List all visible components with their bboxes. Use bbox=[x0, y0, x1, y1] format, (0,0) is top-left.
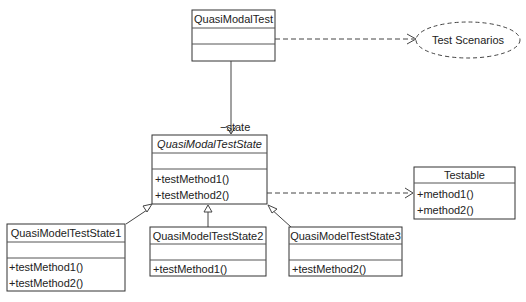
class-name: QuasiModelTestState3 bbox=[290, 230, 401, 242]
generalization-state2 bbox=[204, 205, 212, 227]
method: +testMethod2() bbox=[292, 263, 366, 275]
dependency-to-test-scenarios bbox=[275, 34, 416, 44]
class-quasi-model-test-state1: QuasiModelTestState1 +testMethod1() +tes… bbox=[7, 224, 125, 291]
method: +method1() bbox=[417, 188, 474, 200]
class-name: QuasiModalTestState bbox=[157, 138, 262, 150]
method: +testMethod1() bbox=[155, 173, 229, 185]
method: +testMethod2() bbox=[155, 189, 229, 201]
method: +testMethod1() bbox=[153, 263, 227, 275]
class-quasi-model-test-state3: QuasiModelTestState3 +testMethod2() bbox=[289, 227, 402, 276]
uml-diagram: QuasiModalTest Test Scenarios −state Qua… bbox=[0, 0, 526, 302]
generalization-state1 bbox=[126, 204, 152, 224]
role-label: −state bbox=[220, 121, 250, 133]
class-quasi-modal-test: QuasiModalTest bbox=[192, 10, 275, 61]
usecase-name: Test Scenarios bbox=[432, 34, 505, 46]
class-name: Testable bbox=[444, 169, 485, 181]
generalization-state3 bbox=[268, 205, 291, 227]
dependency-to-testable bbox=[267, 188, 413, 198]
class-name: QuasiModalTest bbox=[194, 13, 273, 25]
class-name: QuasiModelTestState1 bbox=[11, 227, 122, 239]
class-quasi-model-test-state2: QuasiModelTestState2 +testMethod1() bbox=[150, 227, 266, 276]
class-quasi-modal-test-state: QuasiModalTestState +testMethod1() +test… bbox=[152, 135, 267, 204]
association-state: −state bbox=[220, 61, 250, 134]
method: +testMethod1() bbox=[9, 261, 83, 273]
method: +method2() bbox=[417, 204, 474, 216]
class-name: QuasiModelTestState2 bbox=[153, 230, 264, 242]
usecase-test-scenarios: Test Scenarios bbox=[416, 22, 520, 58]
class-testable: Testable +method1() +method2() bbox=[414, 167, 515, 219]
method: +testMethod2() bbox=[9, 277, 83, 289]
